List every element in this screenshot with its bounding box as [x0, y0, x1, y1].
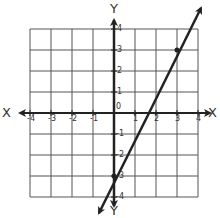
y-tick-label: -2	[116, 151, 124, 159]
y-axis-label-bottom: Y	[110, 204, 118, 217]
x-tick-label: 4	[196, 115, 201, 123]
x-tick-label: -3	[48, 115, 56, 123]
x-axis-label-left: X	[2, 106, 11, 119]
y-axis-label-top: Y	[110, 2, 118, 15]
x-tick-label: 1	[133, 115, 138, 123]
y-tick-label: -4	[116, 193, 124, 201]
point-3-3	[175, 48, 180, 53]
x-tick-label: -1	[90, 115, 98, 123]
coordinate-plane	[0, 0, 220, 218]
y-tick-label: 1	[117, 88, 122, 96]
y-tick-label: 3	[117, 46, 122, 54]
y-tick-label: -3	[116, 172, 124, 180]
x-axis-label-right: X	[208, 106, 217, 119]
origin-label: 0	[116, 103, 121, 111]
y-tick-label: 4	[117, 25, 122, 33]
x-tick-label: -2	[69, 115, 77, 123]
y-tick-label: -1	[116, 130, 124, 138]
x-tick-label: -4	[27, 115, 35, 123]
x-tick-label: 2	[154, 115, 159, 123]
x-tick-label: 3	[175, 115, 180, 123]
y-tick-label: 2	[117, 67, 122, 75]
